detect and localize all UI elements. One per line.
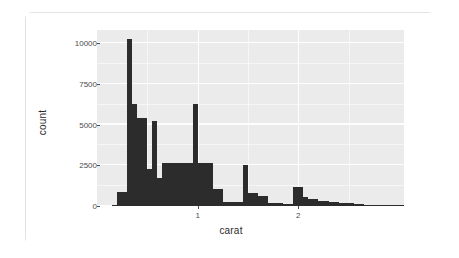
x-tick-mark — [298, 206, 299, 209]
x-tick-label: 2 — [296, 211, 300, 220]
chart-figure: 025005000750010000 count 12 carat — [26, 13, 436, 246]
x-tick-label: 1 — [195, 211, 199, 220]
x-axis: 12 — [26, 13, 436, 246]
plot-card: 025005000750010000 count 12 carat — [25, 12, 435, 245]
x-tick-mark — [198, 206, 199, 209]
x-axis-title: carat — [26, 225, 436, 236]
